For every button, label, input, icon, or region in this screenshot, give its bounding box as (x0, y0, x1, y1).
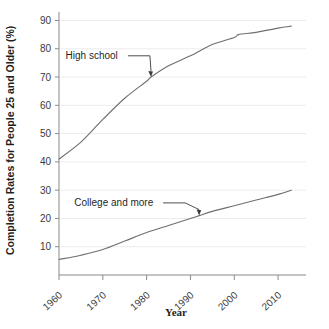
x-axis-ticks-group: 196019701980199020002010 (40, 275, 283, 312)
y-tick-label: 50 (40, 128, 52, 139)
y-tick-label: 60 (40, 100, 52, 111)
annotation-label: College and more (74, 197, 153, 208)
annotation-leader-line (163, 203, 199, 210)
x-axis-title: Year (165, 306, 187, 318)
y-tick-label: 70 (40, 72, 52, 83)
y-axis-title: Completion Rates for People 25 and Older… (4, 26, 16, 255)
x-tick-label: 2000 (216, 289, 240, 312)
annotation-label: High school (66, 50, 118, 61)
y-tick-label: 90 (40, 15, 52, 26)
x-tick-label: 2010 (260, 289, 284, 312)
y-tick-label: 80 (40, 43, 52, 54)
chart-page: 102030405060708090 196019701980199020002… (0, 0, 329, 329)
y-tick-label: 20 (40, 213, 52, 224)
y-axis-ticks-group: 102030405060708090 (40, 15, 59, 252)
x-tick-label: 1970 (84, 289, 108, 312)
x-tick-label: 1980 (128, 289, 152, 312)
y-tick-label: 40 (40, 156, 52, 167)
series-line-high-school (59, 26, 291, 159)
x-tick-label: 1960 (40, 289, 64, 312)
y-tick-label: 30 (40, 185, 52, 196)
annotation-leader-line (128, 56, 151, 71)
line-chart: 102030405060708090 196019701980199020002… (0, 0, 329, 329)
y-tick-label: 10 (40, 241, 52, 252)
annotations-group: High schoolCollege and more (66, 50, 202, 215)
